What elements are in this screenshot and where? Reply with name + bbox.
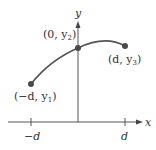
- point-middle: [75, 45, 81, 51]
- point-label-middle: (0, y2): [43, 28, 76, 42]
- tick-label-d: d: [121, 130, 128, 143]
- y-axis-arrow-icon: [76, 21, 81, 28]
- tick-label-neg-d: −d: [24, 130, 40, 143]
- point-label-left: (−d, y1): [14, 90, 57, 104]
- parabola-through-three-points-diagram: x y −d d (−d, y1) (0, y2) (d, y3): [0, 0, 156, 150]
- point-right: [122, 43, 128, 49]
- point-left: [28, 81, 34, 87]
- point-label-right: (d, y3): [108, 53, 141, 67]
- x-axis-label: x: [145, 116, 152, 129]
- x-axis-arrow-icon: [136, 120, 143, 125]
- y-axis-label: y: [74, 7, 82, 20]
